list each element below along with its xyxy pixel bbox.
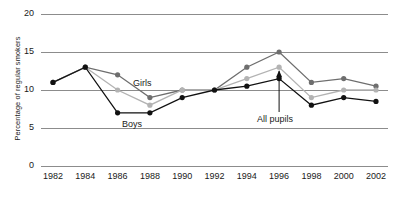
y-tick-label-10: 10 — [8, 84, 34, 94]
series-line — [53, 67, 376, 105]
data-point — [341, 87, 346, 92]
series-boys — [50, 65, 378, 116]
y-tick-label-15: 15 — [8, 46, 34, 56]
data-point — [277, 65, 282, 70]
data-point — [373, 99, 378, 104]
series-label-boys: Boys — [122, 119, 142, 129]
data-point — [244, 76, 249, 81]
data-point — [115, 72, 120, 77]
plot-area — [41, 14, 388, 166]
series-label-all-pupils: All pupils — [257, 114, 293, 124]
data-point — [244, 65, 249, 70]
line-chart: Percentage of regular smokers 05101520 1… — [0, 0, 399, 201]
series-label-girls: Girls — [133, 78, 152, 88]
gridline-0 — [41, 166, 388, 167]
data-series-layer — [41, 14, 388, 166]
data-point — [309, 80, 314, 85]
y-tick-label-5: 5 — [8, 122, 34, 132]
data-point — [341, 95, 346, 100]
data-point — [115, 110, 120, 115]
data-point — [147, 110, 152, 115]
data-point — [180, 87, 185, 92]
data-point — [50, 80, 55, 85]
data-point — [309, 95, 314, 100]
annotation-arrowhead — [276, 70, 282, 77]
data-point — [147, 103, 152, 108]
data-point — [277, 49, 282, 54]
data-point — [115, 87, 120, 92]
data-point — [180, 95, 185, 100]
y-tick-label-0: 0 — [8, 160, 34, 170]
data-point — [373, 87, 378, 92]
y-tick-label-20: 20 — [8, 8, 34, 18]
x-tick-label-2002: 2002 — [356, 171, 396, 181]
data-point — [83, 65, 88, 70]
data-point — [147, 95, 152, 100]
data-point — [244, 84, 249, 89]
data-point — [341, 76, 346, 81]
data-point — [309, 103, 314, 108]
data-point — [212, 87, 217, 92]
